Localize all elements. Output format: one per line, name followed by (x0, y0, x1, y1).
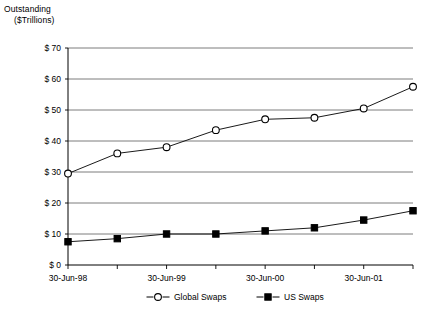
legend-label-us-swaps: US Swaps (284, 292, 324, 302)
legend-item-us-swaps: US Swaps (257, 292, 324, 302)
x-axis-label-2: 30-Jun-00 (246, 273, 285, 283)
x-axis-label-1: 30-Jun-99 (147, 273, 186, 283)
legend-marker-filled-square-icon (265, 294, 271, 300)
series-line-global-swaps (68, 87, 413, 174)
chart-container: Outstanding ($Trillions) $ 70$ 60$ 50$ 4… (0, 0, 421, 316)
y-axis-label-30: $ 30 (44, 167, 61, 177)
legend-item-global-swaps: Global Swaps (147, 292, 227, 302)
data-point-us-swaps-5 (311, 225, 317, 231)
data-point-global-swaps-6 (360, 105, 367, 112)
data-point-us-swaps-0 (65, 239, 71, 245)
x-axis-label-0: 30-Jun-98 (49, 273, 88, 283)
data-point-us-swaps-4 (262, 228, 268, 234)
y-axis-label-10: $ 10 (44, 229, 61, 239)
data-point-global-swaps-3 (212, 127, 219, 134)
y-axis-label-70: $ 70 (44, 43, 61, 53)
data-point-us-swaps-3 (213, 231, 219, 237)
data-point-us-swaps-6 (361, 217, 367, 223)
data-point-global-swaps-1 (114, 150, 121, 157)
legend-label-global-swaps: Global Swaps (174, 292, 226, 302)
line-chart-plot: $ 70$ 60$ 50$ 40$ 30$ 20$ 10$ 030-Jun-98… (0, 0, 421, 316)
data-point-global-swaps-5 (311, 114, 318, 121)
y-axis-label-20: $ 20 (44, 198, 61, 208)
data-point-global-swaps-0 (65, 170, 72, 177)
data-point-us-swaps-7 (410, 208, 416, 214)
data-point-us-swaps-1 (114, 235, 120, 241)
y-axis-label-40: $ 40 (44, 136, 61, 146)
data-point-global-swaps-2 (163, 144, 170, 151)
data-point-global-swaps-7 (410, 83, 417, 90)
x-axis-label-3: 30-Jun-01 (345, 273, 384, 283)
y-axis-label-60: $ 60 (44, 74, 61, 84)
data-point-global-swaps-4 (262, 116, 269, 123)
legend-marker-open-circle-icon (155, 294, 162, 301)
y-axis-label-0: $ 0 (49, 260, 61, 270)
y-axis-label-50: $ 50 (44, 105, 61, 115)
data-point-us-swaps-2 (163, 231, 169, 237)
